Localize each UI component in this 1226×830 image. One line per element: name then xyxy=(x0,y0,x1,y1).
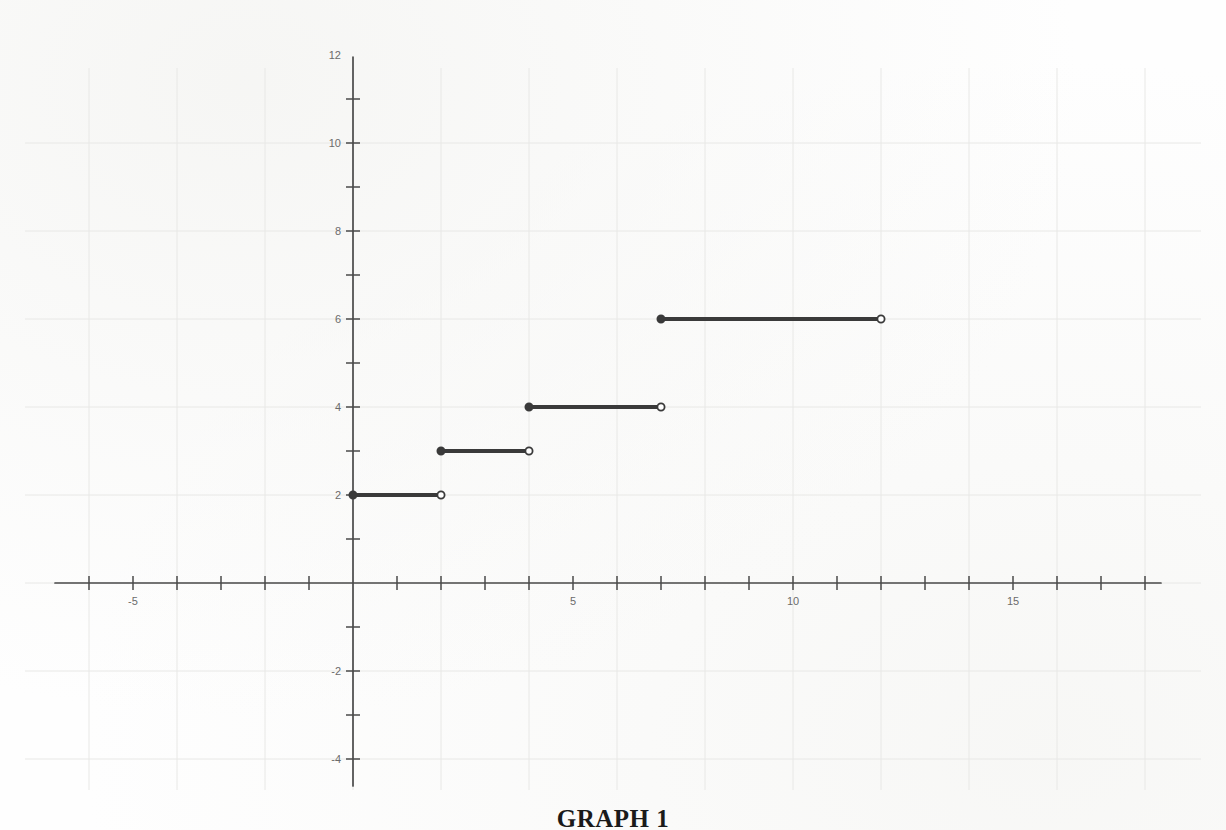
y-tick-label: 8 xyxy=(335,225,341,237)
axis-lines xyxy=(55,57,1161,786)
closed-endpoint-dot xyxy=(525,403,532,410)
y-tick-label: -4 xyxy=(331,753,341,765)
open-endpoint-dot xyxy=(877,315,884,322)
y-tick-label: 4 xyxy=(335,401,341,413)
open-endpoint-dot xyxy=(657,403,664,410)
x-tick-label: 15 xyxy=(1007,595,1019,607)
graph-canvas: -55101512108642-2-4 xyxy=(0,0,1226,800)
figure-caption: GRAPH 1 xyxy=(0,806,1226,830)
x-tick-label: 5 xyxy=(570,595,576,607)
gridlines xyxy=(25,68,1201,790)
closed-endpoint-dot xyxy=(657,315,664,322)
closed-endpoint-dot xyxy=(437,447,444,454)
open-endpoint-dot xyxy=(437,491,444,498)
y-tick-label: 12 xyxy=(329,49,341,61)
x-tick-label: 10 xyxy=(787,595,799,607)
y-tick-label: 10 xyxy=(329,137,341,149)
closed-endpoint-dot xyxy=(349,491,356,498)
y-tick-label: 2 xyxy=(335,489,341,501)
y-tick-label: -2 xyxy=(331,665,341,677)
y-tick-label: 6 xyxy=(335,313,341,325)
open-endpoint-dot xyxy=(525,447,532,454)
step-function-plot: -55101512108642-2-4 xyxy=(0,0,1226,800)
x-tick-label: -5 xyxy=(128,595,138,607)
